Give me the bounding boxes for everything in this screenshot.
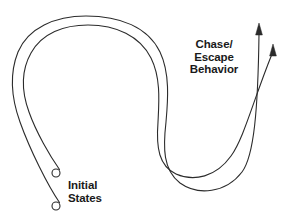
chase-escape-line-3: Behavior [186, 63, 242, 76]
initial-state-circle-upper [52, 169, 60, 177]
initial-states-line-2: States [68, 192, 124, 205]
chase-escape-line-1: Chase/ [186, 38, 242, 51]
initial-states-line-1: Initial [68, 179, 124, 192]
arrowhead-right-icon [270, 44, 277, 56]
chase-escape-line-2: Escape [186, 51, 242, 64]
initial-states-label: Initial States [68, 179, 124, 204]
arrowhead-left-icon [256, 23, 263, 35]
chase-escape-behavior-label: Chase/ Escape Behavior [186, 38, 242, 76]
diagram-canvas: Chase/ Escape Behavior Initial States [0, 0, 286, 217]
trajectory-diagram-svg [0, 0, 286, 217]
initial-state-circle-lower [52, 202, 60, 210]
